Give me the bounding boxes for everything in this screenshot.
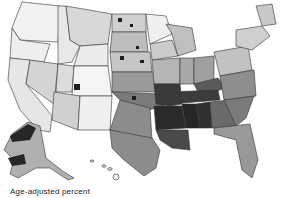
legend-caption: Age-adjusted percent — [10, 187, 90, 196]
us-county-map — [0, 0, 286, 198]
alaska — [4, 122, 74, 180]
western-states — [8, 2, 112, 132]
hawaii — [90, 160, 119, 180]
